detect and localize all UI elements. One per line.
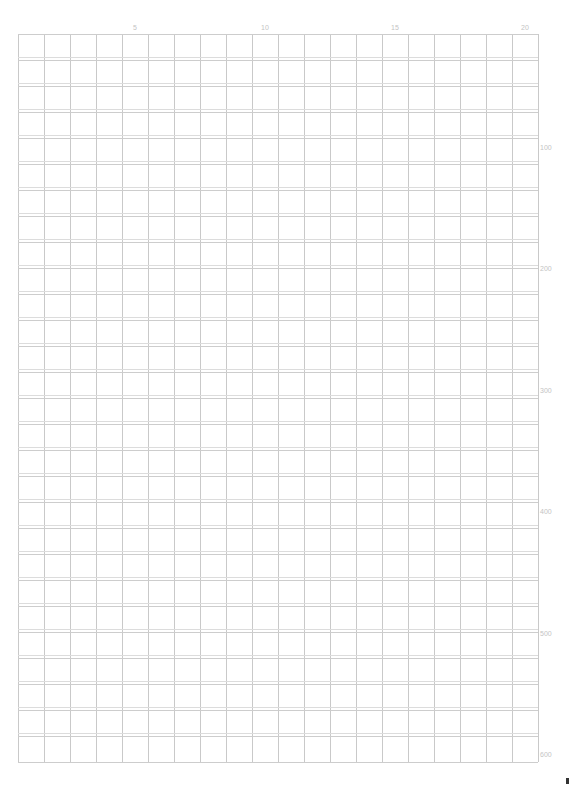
grid-row-line <box>18 736 538 737</box>
grid-row-line-inner <box>18 655 538 656</box>
grid-row-line-inner <box>18 629 538 630</box>
grid-row-line-inner <box>18 109 538 110</box>
grid-row-line <box>18 632 538 633</box>
grid-row-line-inner <box>18 707 538 708</box>
grid-row-line-inner <box>18 733 538 734</box>
grid-row-line-inner <box>18 187 538 188</box>
grid-row-line <box>18 398 538 399</box>
grid-row-line <box>18 86 538 87</box>
column-number-label: 5 <box>133 24 137 31</box>
character-count-label: 100 <box>540 144 552 151</box>
grid-paper-sheet: 5101520100200300400500600 <box>0 0 572 787</box>
grid-row-line <box>18 684 538 685</box>
grid-row-line-inner <box>18 265 538 266</box>
grid-row-line-inner <box>18 447 538 448</box>
character-count-label: 600 <box>540 751 552 758</box>
grid-row-line <box>18 372 538 373</box>
grid-row-line-inner <box>18 239 538 240</box>
grid-row-line <box>18 554 538 555</box>
grid-row-line <box>18 450 538 451</box>
grid-row-line-inner <box>18 421 538 422</box>
character-count-label: 300 <box>540 387 552 394</box>
grid-row-line <box>18 138 538 139</box>
grid-row-line-inner <box>18 499 538 500</box>
grid-row-line-inner <box>18 525 538 526</box>
grid-row-line <box>18 242 538 243</box>
grid-row-line <box>18 190 538 191</box>
grid-row-line <box>18 268 538 269</box>
column-number-label: 10 <box>261 24 269 31</box>
grid-row-line <box>18 112 538 113</box>
grid-row-line <box>18 294 538 295</box>
grid-row-line <box>18 424 538 425</box>
grid-row-line <box>18 34 538 35</box>
grid-row-line-inner <box>18 57 538 58</box>
grid-row-line-inner <box>18 369 538 370</box>
grid-row-line <box>18 216 538 217</box>
grid-row-line <box>18 658 538 659</box>
character-count-label: 500 <box>540 630 552 637</box>
grid-row-line <box>18 320 538 321</box>
grid-row-line <box>18 710 538 711</box>
corner-mark <box>566 778 569 784</box>
column-number-label: 15 <box>391 24 399 31</box>
grid-row-line-inner <box>18 317 538 318</box>
grid-row-line-inner <box>18 213 538 214</box>
grid-row-line <box>18 476 538 477</box>
grid-row-line <box>18 528 538 529</box>
grid-row-line <box>18 606 538 607</box>
grid-row-line <box>18 762 538 763</box>
grid-row-line-inner <box>18 135 538 136</box>
character-count-label: 400 <box>540 508 552 515</box>
grid-row-line-inner <box>18 161 538 162</box>
grid-row-line <box>18 346 538 347</box>
grid-row-line-inner <box>18 551 538 552</box>
character-count-label: 200 <box>540 265 552 272</box>
grid-row-line <box>18 580 538 581</box>
grid-row-line-inner <box>18 681 538 682</box>
column-number-label: 20 <box>521 24 529 31</box>
grid-row-line-inner <box>18 603 538 604</box>
grid-row-line-inner <box>18 395 538 396</box>
grid-column-line <box>538 34 539 762</box>
grid-row-line-inner <box>18 83 538 84</box>
grid-row-line <box>18 502 538 503</box>
grid-row-line-inner <box>18 473 538 474</box>
grid-row-line <box>18 60 538 61</box>
grid-row-line-inner <box>18 291 538 292</box>
grid-row-line-inner <box>18 343 538 344</box>
grid-row-line <box>18 164 538 165</box>
grid-row-line-inner <box>18 577 538 578</box>
